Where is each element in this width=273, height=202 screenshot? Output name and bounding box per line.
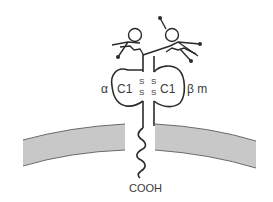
protein-membrane-diagram: α C1 C1 β m S S S S COOH bbox=[0, 0, 273, 202]
cytoplasmic-tail bbox=[137, 128, 146, 178]
svg-text:S: S bbox=[139, 88, 144, 97]
svg-text:S: S bbox=[151, 77, 156, 86]
svg-text:S: S bbox=[139, 77, 144, 86]
glycan-left-ring bbox=[129, 29, 142, 42]
alpha-chain bbox=[137, 54, 146, 178]
alpha-chain-label: α bbox=[101, 82, 108, 96]
glycan-right-ring bbox=[166, 29, 179, 42]
svg-text:S: S bbox=[151, 88, 156, 97]
glycan-structures bbox=[112, 18, 200, 61]
disulfide-bonds: S S S S bbox=[139, 77, 156, 97]
beta-chain-label: β m bbox=[187, 82, 207, 96]
right-domain-label: C1 bbox=[160, 82, 176, 96]
membrane-left bbox=[23, 124, 125, 166]
terminus-label: COOH bbox=[129, 182, 162, 194]
membrane-right bbox=[155, 124, 256, 168]
glycan-terminal-dots bbox=[116, 16, 202, 63]
left-domain-label: C1 bbox=[117, 82, 133, 96]
